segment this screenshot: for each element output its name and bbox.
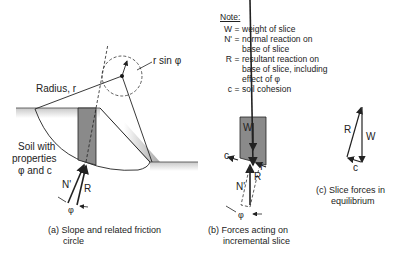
r-label-b: R bbox=[254, 171, 261, 182]
n-label-b: N' bbox=[236, 181, 245, 192]
n-label-a: N' bbox=[62, 179, 71, 190]
caption-b: (b) Forces acting on incremental slice bbox=[208, 225, 290, 247]
c-label-c: c bbox=[353, 162, 358, 173]
c-label-b: c bbox=[224, 150, 229, 161]
phi-label-b: φ bbox=[238, 210, 244, 220]
soil-label-3: φ and c bbox=[18, 165, 52, 176]
caption-b-line1: (b) Forces acting on bbox=[208, 225, 290, 236]
note-val-r-2: base of slice, including bbox=[220, 64, 328, 74]
note-val-r-3: effect of φ bbox=[220, 74, 328, 84]
caption-c: (c) Slice forces in equilibrium bbox=[316, 185, 385, 207]
soil-label-2: properties bbox=[12, 153, 56, 164]
caption-a: (a) Slope and related friction circle bbox=[48, 225, 161, 247]
note-val-n-2: base of slice bbox=[220, 44, 328, 54]
note-key-r: R bbox=[220, 54, 232, 64]
note-key-c: c bbox=[220, 84, 232, 94]
w-label-b: W bbox=[243, 122, 253, 133]
radius-label: Radius, r bbox=[36, 83, 77, 94]
rsin-label: r sin φ bbox=[153, 55, 182, 66]
caption-c-line2: equilibrium bbox=[316, 196, 385, 207]
note-val-n-1: normal reaction on bbox=[242, 34, 328, 44]
caption-a-line1: (a) Slope and related friction bbox=[48, 225, 161, 236]
note-val-c: soil cohesion bbox=[242, 84, 328, 94]
caption-b-line2: incremental slice bbox=[208, 236, 290, 247]
caption-c-line1: (c) Slice forces in bbox=[316, 185, 385, 196]
note-val-w: weight of slice bbox=[242, 24, 328, 34]
phi-label-a: φ bbox=[68, 205, 74, 215]
note-key-n: N' bbox=[220, 34, 232, 44]
note-key-w: W bbox=[220, 24, 232, 34]
caption-a-line2: circle bbox=[48, 236, 161, 247]
note-title: Note: bbox=[220, 12, 328, 22]
r-label-a: R bbox=[84, 183, 91, 194]
diagram-canvas: Radius, r r sin φ Soil with properties φ… bbox=[0, 0, 396, 262]
legend-note: Note: W=weight of slice N'=normal reacti… bbox=[220, 12, 328, 94]
soil-label-1: Soil with bbox=[18, 141, 55, 152]
r-label-c: R bbox=[344, 124, 351, 135]
w-label-c: W bbox=[366, 131, 376, 142]
note-val-r-1: resultant reaction on bbox=[242, 54, 328, 64]
